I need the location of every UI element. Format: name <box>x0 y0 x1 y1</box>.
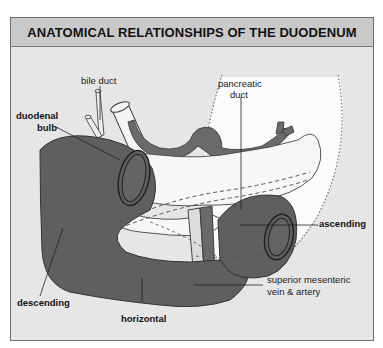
duodenum-illustration <box>0 0 383 348</box>
label-duodenal-bulb-line1: duodenal <box>16 110 58 121</box>
label-horizontal: horizontal <box>121 313 166 324</box>
label-duodenal-bulb-line2: bulb <box>37 122 57 133</box>
label-pancreatic-duct-line2: duct <box>230 89 248 100</box>
label-bile-duct: bile duct <box>81 75 116 86</box>
label-descending: descending <box>17 297 70 308</box>
label-sma-line1: superior mesenteric <box>267 274 350 285</box>
label-ascending: ascending <box>319 218 366 229</box>
label-sma-line2: vein & artery <box>267 286 320 297</box>
label-pancreatic-duct-line1: pancreatic <box>218 78 262 89</box>
